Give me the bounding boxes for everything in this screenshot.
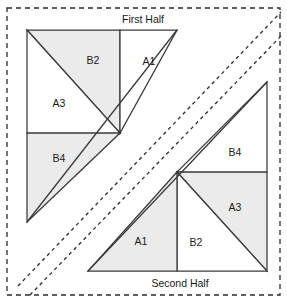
label-second-half-a3: A3	[229, 201, 242, 213]
first-half-label: First Half	[122, 13, 164, 25]
first-half-piece-b4	[27, 133, 120, 222]
quilt-diagram-root: First Half Second Half B2 A1 A3 B4 B4 A3…	[0, 0, 287, 303]
label-second-half-b2: B2	[190, 236, 203, 248]
first-half-piece-a1	[120, 30, 177, 133]
quilt-block-diagram: First Half Second Half B2 A1 A3 B4 B4 A3…	[0, 0, 287, 303]
label-second-half-b4: B4	[229, 146, 242, 158]
label-first-half-a1: A1	[143, 55, 156, 67]
second-half-label: Second Half	[151, 277, 208, 289]
label-first-half-a3: A3	[53, 97, 66, 109]
label-second-half-a1: A1	[135, 235, 148, 247]
label-first-half-b2: B2	[87, 54, 100, 66]
label-first-half-b4: B4	[53, 152, 66, 164]
